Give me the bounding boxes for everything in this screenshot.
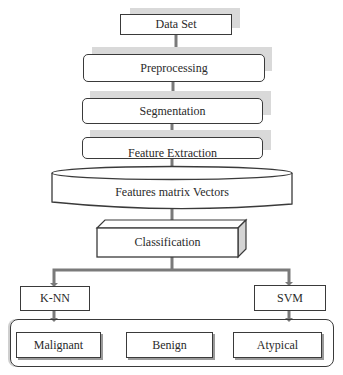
node-svm: SVM	[254, 285, 326, 311]
node-benign: Benign	[126, 332, 213, 358]
node-segmentation: Segmentation	[82, 98, 263, 124]
node-label: Data Set	[156, 17, 197, 32]
node-label: Malignant	[34, 338, 83, 353]
node-label: SVM	[277, 291, 303, 306]
node-label: Atypical	[257, 338, 298, 353]
node-malignant: Malignant	[16, 332, 101, 358]
node-data-set: Data Set	[120, 14, 232, 35]
features-matrix-label-wrap: Features matrix Vectors	[52, 180, 292, 204]
node-knn: K-NN	[20, 286, 90, 311]
node-label: Segmentation	[140, 104, 206, 119]
classification-label-wrap: Classification	[97, 228, 238, 257]
node-label: Preprocessing	[140, 61, 207, 76]
node-label: K-NN	[40, 291, 70, 306]
node-atypical: Atypical	[233, 332, 322, 358]
node-label: Feature Extraction	[128, 146, 217, 159]
node-feature-extraction: Feature Extraction	[82, 137, 263, 159]
split-connector	[54, 270, 289, 284]
node-label: Classification	[135, 235, 201, 250]
node-label: Benign	[152, 338, 187, 353]
node-label: Features matrix Vectors	[115, 185, 229, 200]
node-preprocessing: Preprocessing	[83, 54, 265, 82]
